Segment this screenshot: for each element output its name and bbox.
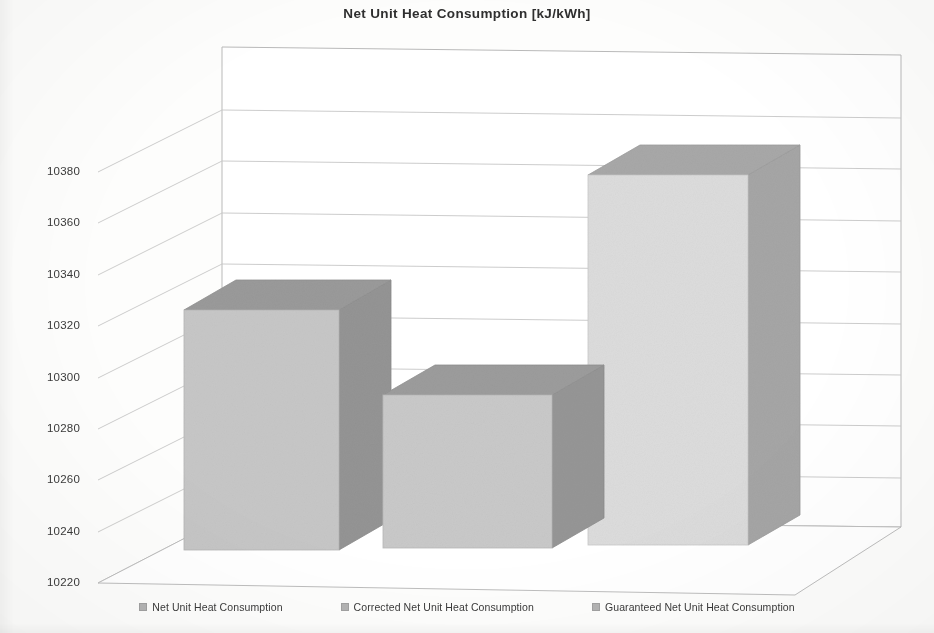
bar-net-unit-heat-consumption[interactable] bbox=[184, 280, 391, 550]
legend-swatch-icon bbox=[592, 603, 600, 611]
y-axis-tick-10220: 10220 bbox=[20, 576, 80, 588]
bar-guaranteed-net-unit-heat-consumption[interactable] bbox=[588, 145, 800, 545]
legend-item-corrected-net-unit-heat-consumption[interactable]: Corrected Net Unit Heat Consumption bbox=[341, 601, 534, 613]
legend-item-net-unit-heat-consumption[interactable]: Net Unit Heat Consumption bbox=[139, 601, 282, 613]
legend-label: Net Unit Heat Consumption bbox=[152, 601, 282, 613]
y-axis-tick-10320: 10320 bbox=[20, 319, 80, 331]
chart-plot-area bbox=[0, 0, 934, 633]
y-axis-tick-10340: 10340 bbox=[20, 268, 80, 280]
y-axis-tick-10380: 10380 bbox=[20, 165, 80, 177]
legend-label: Corrected Net Unit Heat Consumption bbox=[354, 601, 534, 613]
y-axis-tick-10300: 10300 bbox=[20, 371, 80, 383]
chart-legend: Net Unit Heat Consumption Corrected Net … bbox=[0, 601, 934, 613]
legend-item-guaranteed-net-unit-heat-consumption[interactable]: Guaranteed Net Unit Heat Consumption bbox=[592, 601, 795, 613]
y-axis-tick-10280: 10280 bbox=[20, 422, 80, 434]
legend-swatch-icon bbox=[139, 603, 147, 611]
chart-container: Net Unit Heat Consumption [kJ/kWh] bbox=[0, 0, 934, 633]
legend-swatch-icon bbox=[341, 603, 349, 611]
y-axis-tick-10260: 10260 bbox=[20, 473, 80, 485]
legend-label: Guaranteed Net Unit Heat Consumption bbox=[605, 601, 795, 613]
bar-corrected-net-unit-heat-consumption[interactable] bbox=[383, 365, 604, 548]
y-axis-tick-10240: 10240 bbox=[20, 525, 80, 537]
y-axis-tick-10360: 10360 bbox=[20, 216, 80, 228]
